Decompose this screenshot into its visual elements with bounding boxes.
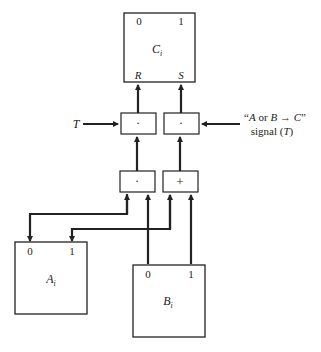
register-c: 0 1 Ci R S	[124, 13, 195, 82]
upper-right-and-gate: ·	[164, 113, 199, 134]
wire-or-to-a1	[72, 195, 170, 241]
register-b-bit1-label: 1	[188, 268, 194, 280]
register-b-bit0-label: 0	[145, 268, 151, 280]
svg-text:+: +	[176, 174, 183, 189]
register-b: 0 1 Bi	[133, 265, 205, 337]
register-a-bit1-label: 1	[69, 245, 75, 257]
register-c-bit0-label: 0	[136, 15, 142, 27]
register-a: 0 1 Ai	[15, 242, 87, 314]
input-signal-label-line1: “A or B → C”	[244, 111, 306, 123]
register-a-bit0-label: 0	[27, 245, 33, 257]
register-c-name: Ci	[152, 42, 162, 58]
wire-and-to-a0	[30, 194, 127, 241]
logic-diagram: 0 1 Ci R S · · · +	[0, 0, 321, 352]
svg-text:·: ·	[136, 116, 140, 130]
svg-text:·: ·	[135, 174, 139, 188]
input-signal-label-line2: signal (T)	[251, 125, 294, 138]
lower-right-or-gate: +	[163, 171, 198, 192]
svg-text:·: ·	[179, 116, 183, 130]
register-b-name: Bi	[163, 294, 173, 310]
input-t-label: T	[73, 117, 81, 131]
register-c-set-label: S	[178, 69, 184, 81]
register-c-reset-label: R	[134, 69, 142, 81]
lower-left-and-gate: ·	[120, 171, 155, 192]
register-c-bit1-label: 1	[178, 15, 184, 27]
register-a-name: Ai	[45, 272, 56, 288]
upper-left-and-gate: ·	[121, 113, 156, 134]
